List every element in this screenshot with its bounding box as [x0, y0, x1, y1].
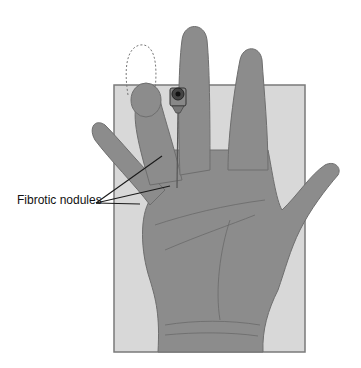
hand-illustration [0, 0, 361, 368]
fibrotic-nodules-label: Fibrotic nodules [17, 193, 102, 207]
hand-diagram: Fibrotic nodules [0, 0, 361, 368]
